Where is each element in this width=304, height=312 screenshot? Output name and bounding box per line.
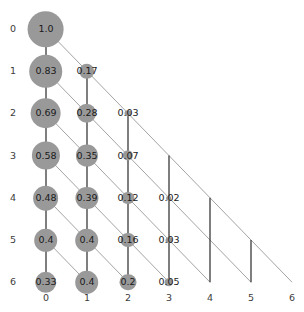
y-axis-tick-label: 4 [10,193,16,203]
node-value-label: 0.69 [36,109,57,119]
x-axis-tick-label: 1 [84,293,90,303]
node-value-label: 0.28 [77,109,98,119]
y-axis-tick-label: 5 [10,235,16,245]
node-value-label: 0.4 [80,277,95,287]
y-axis-tick-label: 1 [10,66,16,76]
lattice-node[interactable]: 0.48 [36,193,57,203]
lattice-node[interactable]: 0.03 [118,109,139,119]
x-axis-tick-label: 6 [289,293,295,303]
node-value-label: 0.12 [118,193,139,203]
lattice-diagram: 1.00.830.170.690.280.030.580.350.070.480… [0,0,304,312]
x-axis-tick-label: 4 [207,293,213,303]
diagonal-edge [210,198,251,240]
lattice-node[interactable]: 0.33 [36,277,57,287]
node-value-label: 0.48 [36,193,57,203]
diagonal-edge [210,240,251,282]
x-axis-tick-label: 3 [166,293,172,303]
lattice-node[interactable]: 0.17 [77,66,98,76]
x-axis-tick-label: 2 [125,293,131,303]
node-value-label: 0.07 [118,151,139,161]
x-axis-tick-label: 5 [248,293,254,303]
lattice-node[interactable]: 0.4 [80,277,95,287]
lattice-node[interactable]: 0.02 [159,193,180,203]
node-value-label: 0.33 [36,277,57,287]
node-value-label: 0.02 [159,193,180,203]
lattice-node[interactable]: 0.28 [77,109,98,119]
node-value-label: 0.17 [77,66,98,76]
node-value-label: 0.2 [121,277,136,287]
lattice-node[interactable]: 0.03 [159,235,180,245]
lattice-node[interactable]: 0.69 [36,109,57,119]
lattice-node[interactable]: 0.12 [118,193,139,203]
y-axis-tick-label: 0 [10,24,16,34]
node-value-label: 0.05 [159,277,180,287]
y-axis-tick-label: 3 [10,151,16,161]
node-value-label: 0.83 [36,66,57,76]
lattice-node[interactable]: 0.4 [80,235,95,245]
lattice-node[interactable]: 0.39 [77,193,98,203]
node-value-label: 0.4 [39,235,54,245]
lattice-node[interactable]: 0.4 [39,235,54,245]
node-value-label: 1.0 [39,24,54,34]
node-value-label: 0.03 [159,235,180,245]
node-value-label: 0.16 [118,235,139,245]
lattice-node[interactable]: 0.2 [121,277,136,287]
node-value-label: 0.35 [77,151,98,161]
lattice-node[interactable]: 1.0 [39,24,54,34]
node-value-label: 0.39 [77,193,98,203]
node-value-label: 0.4 [80,235,95,245]
diagonal-edge [251,240,292,282]
lattice-node[interactable]: 0.07 [118,151,139,161]
lattice-node[interactable]: 0.16 [118,235,139,245]
lattice-node[interactable]: 0.58 [36,151,57,161]
lattice-node[interactable]: 0.05 [159,277,180,287]
node-value-label: 0.03 [118,109,139,119]
lattice-node[interactable]: 0.35 [77,151,98,161]
y-axis-tick-label: 6 [10,277,16,287]
node-value-label: 0.58 [36,151,57,161]
lattice-node[interactable]: 0.83 [36,66,57,76]
x-axis-tick-label: 0 [43,293,49,303]
y-axis-tick-label: 2 [10,109,16,119]
